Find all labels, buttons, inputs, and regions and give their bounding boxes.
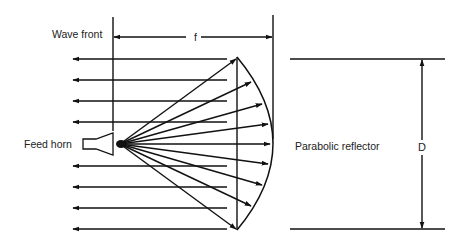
feed-ray-arrow — [120, 144, 262, 185]
focal-point-icon — [116, 140, 126, 148]
wave-front-label: Wave front — [52, 29, 102, 40]
reflector-label: Parabolic reflector — [295, 141, 380, 152]
diameter-label: D — [417, 140, 427, 155]
feed-horn-label: Feed horn — [24, 139, 72, 150]
focal-length-label: f — [190, 32, 201, 43]
feed-horn-icon — [83, 133, 113, 155]
